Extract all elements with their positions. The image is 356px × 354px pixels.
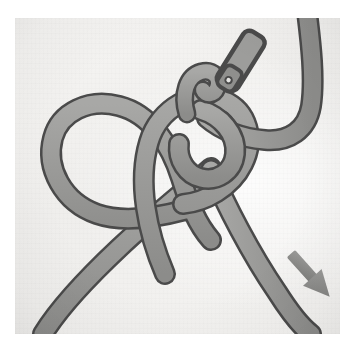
knot-illustration-artwork: [15, 18, 340, 334]
illustration-photo: [15, 18, 340, 334]
cord-tip-aglet: [213, 28, 267, 95]
screenshot-root: [0, 0, 356, 354]
